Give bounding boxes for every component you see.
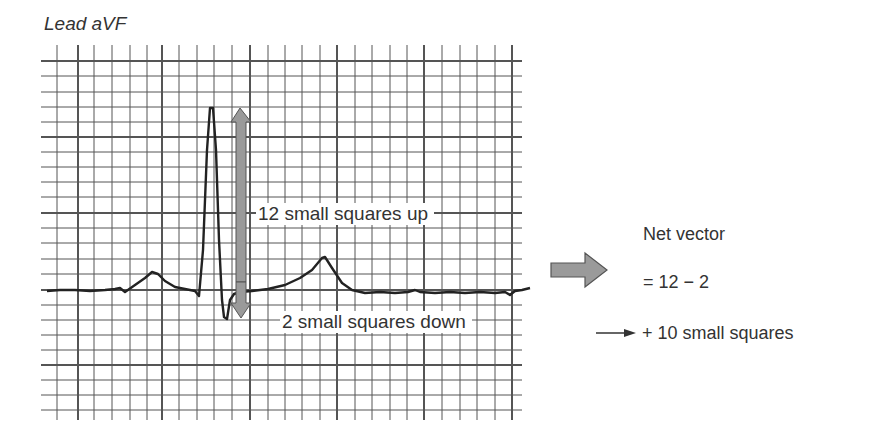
right-block-arrow-icon [551, 253, 607, 287]
ecg-grid [41, 45, 522, 420]
net-vector-title: Net vector [643, 224, 725, 245]
small-right-arrow-icon [596, 326, 640, 340]
net-vector-equation: = 12 − 2 [643, 272, 709, 293]
annotation-up: 12 small squares up [256, 203, 434, 225]
annotation-down: 2 small squares down [280, 311, 472, 333]
net-vector-result: + 10 small squares [642, 323, 794, 344]
ecg-diagram [0, 0, 872, 436]
